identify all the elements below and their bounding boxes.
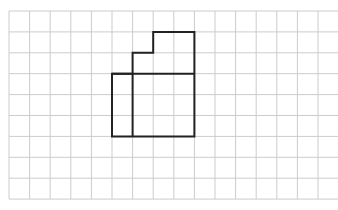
grid-diagram (0, 0, 338, 210)
grid-lines (9, 11, 338, 199)
